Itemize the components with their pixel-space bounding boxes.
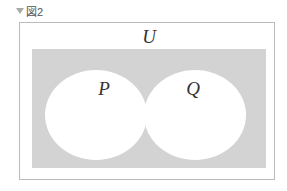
venn-diagram: U P Q [0,0,287,191]
set-p-ellipse [45,70,147,160]
universe-label: U [142,26,157,47]
set-q-label: Q [186,78,200,99]
set-p-label: P [97,78,110,99]
